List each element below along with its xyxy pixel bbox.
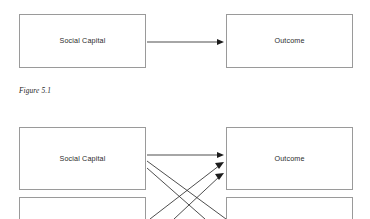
figure-caption-5-1: Figure 5.1 — [19, 86, 51, 95]
edge-sc2-to-bottom-right-a — [147, 161, 226, 219]
node-social-capital-2-label: Social Capital — [59, 155, 105, 162]
diagram-page: Social Capital Outcome Figure 5.1 — [0, 0, 370, 219]
edge-bottom-left-to-outcome2-b — [174, 173, 224, 219]
node-outcome-label: Outcome — [274, 37, 304, 44]
edge-social-capital-to-outcome — [147, 39, 224, 45]
node-bottom-left — [19, 197, 146, 219]
node-bottom-right — [226, 197, 353, 219]
edge-sc2-to-bottom-right-b — [147, 168, 205, 219]
edge-sc2-to-outcome2-straight — [147, 152, 224, 158]
edge-bottom-left-to-outcome2-a — [150, 162, 224, 219]
node-social-capital-2: Social Capital — [19, 127, 146, 190]
node-outcome-2: Outcome — [226, 127, 353, 190]
node-outcome-2-label: Outcome — [274, 155, 304, 162]
node-social-capital: Social Capital — [19, 14, 146, 68]
node-social-capital-label: Social Capital — [59, 37, 105, 44]
node-outcome: Outcome — [226, 14, 353, 68]
